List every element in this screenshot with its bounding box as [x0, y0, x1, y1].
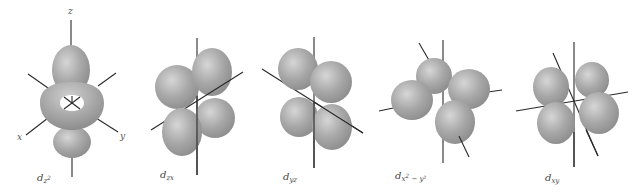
axis-label-x: x	[17, 133, 22, 142]
orbital-dxy	[516, 42, 628, 167]
axis-label-y: y	[120, 132, 125, 141]
orbital-dyz	[262, 37, 363, 168]
orbital-diagram	[0, 0, 643, 194]
lobe-lower-left	[280, 97, 318, 137]
right-axis	[488, 90, 502, 92]
label-dz2: dz2	[37, 173, 51, 185]
lobe-upper-right	[192, 48, 232, 96]
x-axis-front	[26, 118, 48, 135]
axis-label-z: z	[68, 7, 73, 16]
diagonal-axis-front	[586, 130, 598, 156]
lobe-upper-right	[310, 61, 352, 103]
lower-lobe	[53, 126, 91, 158]
lobe-front	[435, 100, 475, 144]
label-dxy: dxy	[545, 173, 559, 185]
lobe-upper-left	[533, 67, 569, 107]
y-axis-back	[98, 73, 116, 86]
x-axis-back	[28, 74, 48, 88]
orbital-dzx	[151, 38, 243, 175]
orbital-dz2	[26, 20, 118, 177]
lobe-left	[391, 80, 433, 120]
lobe-lower-right	[579, 92, 619, 134]
label-dzx: dzx	[160, 170, 174, 182]
lobe-lower-left	[537, 102, 575, 144]
lobe-lower-left	[162, 108, 202, 156]
torus-ring	[40, 82, 104, 130]
lobe-upper-right	[575, 62, 609, 98]
orbital-dx2-y2	[379, 40, 502, 163]
label-dyz: dyz	[283, 172, 297, 184]
label-dx2-y2: dx2 − y²	[395, 171, 426, 183]
lobe-lower-right	[312, 104, 352, 150]
y-axis-front	[96, 118, 118, 132]
